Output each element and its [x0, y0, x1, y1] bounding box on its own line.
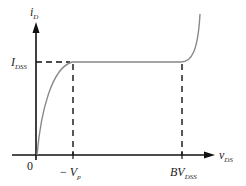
jfet-characteristic-diagram: iD vDS IDSS 0 − Vp BVDSS [0, 0, 246, 186]
vp-tick-label: − Vp [60, 166, 81, 181]
diagram-graphics [0, 0, 246, 186]
origin-label: 0 [27, 160, 33, 172]
bvdss-tick-label: BVDSS [170, 166, 197, 181]
y-axis-arrow-icon [33, 22, 40, 33]
drain-current-curve [37, 14, 200, 155]
x-axis-arrow-icon [204, 152, 215, 159]
y-axis-label: iD [30, 6, 38, 21]
x-axis-label: vDS [219, 149, 233, 164]
idss-label: IDSS [11, 56, 27, 71]
